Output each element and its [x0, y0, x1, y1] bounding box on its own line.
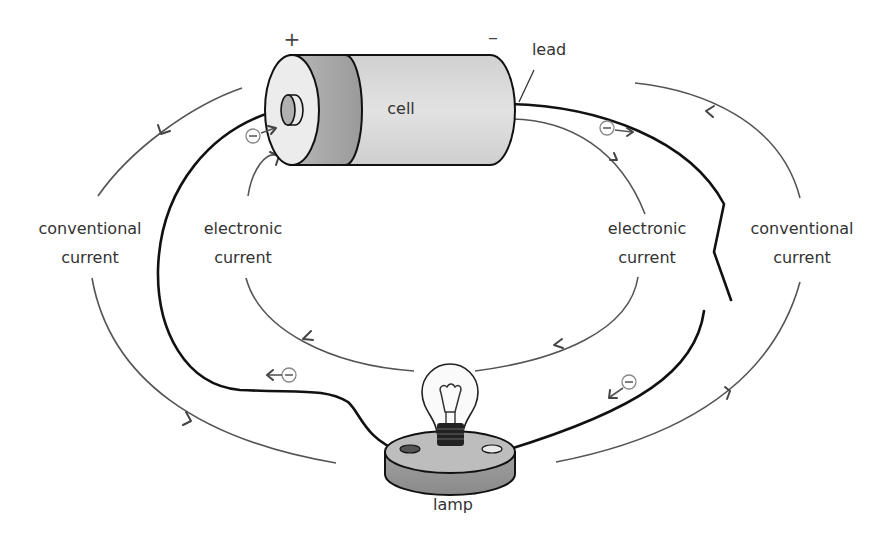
arrow-left-icon	[706, 106, 714, 117]
lamp-left-contact	[400, 445, 420, 453]
electronic-right-label-line2: current	[618, 248, 676, 267]
negative-sign: –	[488, 25, 498, 49]
electron-marker-lower-right	[609, 375, 636, 398]
conventional-left-label-line2: current	[61, 248, 119, 267]
lamp-right-contact	[482, 445, 502, 453]
positive-terminal-nub	[281, 95, 295, 125]
electron-marker-lower-left	[267, 368, 296, 382]
lead-label: lead	[532, 40, 566, 59]
conventional-right-label-line1: conventional	[750, 219, 853, 238]
electronic-right-label-line1: electronic	[608, 219, 687, 238]
lamp-label: lamp	[433, 495, 473, 514]
cell-label: cell	[387, 99, 415, 118]
right-lead-wire-upper	[510, 104, 731, 300]
electronic-right-lower-arc	[475, 277, 638, 371]
positive-sign: +	[284, 27, 301, 51]
electronic-left-label-line2: current	[214, 248, 272, 267]
arrow-up-left-icon	[303, 331, 313, 340]
bulb-glass	[422, 364, 478, 433]
lead-pointer-line	[519, 70, 534, 102]
electronic-left-lower-arc	[246, 278, 414, 371]
conventional-left-upper-arc	[98, 88, 242, 196]
conventional-right-lower-arc	[556, 282, 800, 462]
conventional-left-lower-arc	[92, 278, 336, 463]
arrow-left-icon	[554, 339, 563, 348]
electronic-left-label-line1: electronic	[204, 219, 283, 238]
electronic-left-upper-arc	[248, 155, 278, 196]
cell: cell + – lead	[265, 25, 566, 165]
conventional-right-label-line2: current	[773, 248, 831, 267]
right-lead-wire-lower	[500, 311, 704, 452]
circuit-diagram: cell + – lead	[0, 0, 886, 540]
conventional-left-label-line1: conventional	[38, 219, 141, 238]
electronic-right-upper-arc	[512, 119, 645, 214]
lamp: lamp	[385, 364, 515, 514]
